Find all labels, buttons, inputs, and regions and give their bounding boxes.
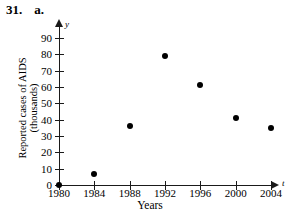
data-point — [56, 182, 62, 188]
y-axis-title-line: Reported cases of AIDS — [17, 23, 28, 193]
data-point — [91, 171, 97, 177]
y-axis-tick — [55, 103, 64, 104]
x-axis-title: Years — [100, 200, 200, 212]
y-axis-variable-label: y — [65, 20, 69, 29]
y-axis-tick — [55, 136, 64, 137]
data-point — [233, 115, 239, 121]
scatter-plot-figure: y t 0102030405060708090 1980198419881992… — [0, 0, 308, 217]
y-axis-tick — [55, 120, 64, 121]
y-axis-tick — [55, 54, 64, 55]
data-point — [127, 123, 133, 129]
x-axis-variable-label: t — [282, 179, 285, 188]
data-point — [162, 53, 168, 59]
y-axis-title-line: (thousands) — [28, 23, 39, 193]
y-axis-tick — [55, 38, 64, 39]
y-axis-title: Reported cases of AIDS(thousands) — [17, 23, 39, 193]
y-axis-arrow-icon — [55, 19, 63, 27]
y-axis-line — [59, 26, 60, 185]
y-axis-tick — [55, 87, 64, 88]
y-axis-tick — [55, 169, 64, 170]
y-axis-tick — [55, 152, 64, 153]
y-axis-tick — [55, 71, 64, 72]
x-axis-tick-label: 2004 — [249, 188, 293, 199]
data-point — [268, 125, 274, 131]
data-point — [197, 82, 203, 88]
